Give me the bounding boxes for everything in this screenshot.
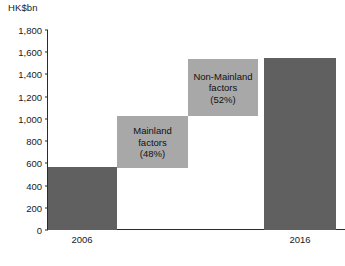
y-axis-tick-mark <box>45 52 48 53</box>
y-axis-tick-mark <box>45 163 48 164</box>
y-axis-tick-label: 1,200 <box>0 91 48 102</box>
y-axis-tick-label: 800 <box>0 136 48 147</box>
y-axis-tick-label: 200 <box>0 202 48 213</box>
mainland-label-line-2: factors <box>117 136 188 148</box>
bar-2006-total <box>48 167 117 230</box>
bar-2016-total <box>264 58 336 230</box>
waterfall-chart: HK$bn 1,8001,6001,4001,2001,000800600400… <box>0 0 345 266</box>
mainland-label-line-1: Mainland <box>117 125 188 137</box>
mainland-label-line-3: (48%) <box>117 148 188 160</box>
y-axis-tick-mark <box>45 141 48 142</box>
y-axis-tick-label: 600 <box>0 158 48 169</box>
x-axis-tick-2006: 2006 <box>71 234 92 245</box>
plot-area: 1,8001,6001,4001,2001,0008006004002000 M… <box>48 30 345 229</box>
non-mainland-label-line-3: (52%) <box>188 93 258 105</box>
y-axis-tick-mark <box>45 118 48 119</box>
non-mainland-label-line-2: factors <box>188 82 258 94</box>
y-axis-tick-mark <box>45 96 48 97</box>
x-axis-tick-2016: 2016 <box>289 234 310 245</box>
bar-mainland-factors-label: Mainland factors (48%) <box>117 125 188 160</box>
y-axis-tick-label: 1,000 <box>0 113 48 124</box>
bar-non-mainland-factors: Non-Mainland factors (52%) <box>188 59 258 116</box>
y-axis-tick-label: 1,600 <box>0 47 48 58</box>
y-axis-tick-label: 1,400 <box>0 69 48 80</box>
bar-mainland-factors: Mainland factors (48%) <box>117 116 188 168</box>
y-axis-tick-mark <box>45 30 48 31</box>
y-axis-unit-caption: HK$bn <box>8 2 38 13</box>
y-axis-tick-label: 400 <box>0 180 48 191</box>
bar-non-mainland-factors-label: Non-Mainland factors (52%) <box>188 70 258 105</box>
y-axis-tick-label: 1,800 <box>0 25 48 36</box>
non-mainland-label-line-1: Non-Mainland <box>188 70 258 82</box>
y-axis-tick-mark <box>45 74 48 75</box>
y-axis-tick-label: 0 <box>0 225 48 236</box>
